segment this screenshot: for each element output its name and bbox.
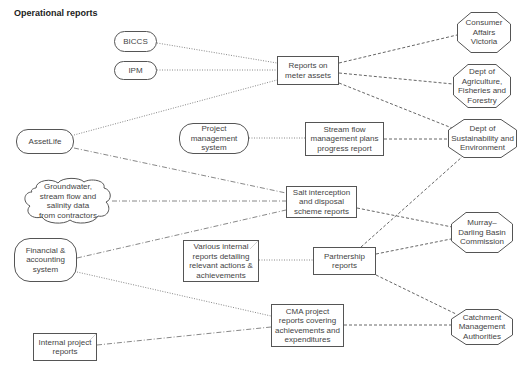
recipient-consumer-affairs-victoria[interactable]: Consumer Affairs Victoria	[457, 12, 511, 53]
source-financial-label: Financial & accounting system	[26, 246, 66, 275]
source-ipm-label: IPM	[128, 66, 142, 76]
source-assetlife[interactable]: AssetLife	[16, 129, 74, 154]
edge-partnership-catchment	[376, 275, 456, 314]
edge-partnership-murray	[376, 239, 451, 254]
report-cma-project-label: CMA project reports covering achievement…	[275, 307, 340, 345]
edge-biccs-meter	[157, 43, 277, 63]
source-groundwater-data[interactable]: Groundwater, stream flow and salinity da…	[22, 176, 114, 226]
recipient-dept-sustainability-environment[interactable]: Dept of Sustainability and Environment	[448, 119, 517, 158]
report-meter-assets-label: Reports on meter assets	[285, 61, 331, 80]
recipient-murray-darling-basin-commission[interactable]: Murray– Darling Basin Commission	[451, 212, 513, 253]
source-biccs-label: BICCS	[123, 37, 147, 47]
edge-internal-cma	[97, 327, 271, 345]
edge-partnership-dse	[361, 157, 462, 247]
edge-salt-murray	[357, 208, 452, 227]
source-ipm[interactable]: IPM	[114, 61, 157, 80]
report-salt-interception-label: Salt interception and disposal scheme re…	[293, 188, 350, 217]
edge-meter-consumer	[339, 35, 457, 63]
recipient-catchment-management-authorities[interactable]: Catchment Management Authorities	[451, 309, 513, 345]
report-cma-project[interactable]: CMA project reports covering achievement…	[271, 304, 344, 347]
source-biccs[interactable]: BICCS	[114, 31, 157, 52]
recipient-catchment-label: Catchment Management Authorities	[459, 313, 506, 342]
report-stream-flow-label: Stream flow management plans progress re…	[310, 125, 378, 154]
report-partnership-label: Partnership reports	[324, 252, 365, 271]
recipient-murray-darling-label: Murray– Darling Basin Commission	[458, 218, 506, 247]
recipient-dept-agriculture-label: Dept of Agriculture, Fisheries and Fores…	[458, 67, 506, 105]
source-project-management-system[interactable]: Project management system	[179, 123, 249, 154]
source-internal-project-reports[interactable]: Internal project reports	[33, 333, 97, 361]
report-salt-interception[interactable]: Salt interception and disposal scheme re…	[286, 186, 357, 218]
report-partnership[interactable]: Partnership reports	[313, 247, 376, 275]
edge-meter-agri	[339, 73, 453, 84]
report-various-internal-label: Various internal reports detailing relev…	[189, 242, 253, 280]
recipient-dse-label: Dept of Sustainability and Environment	[451, 124, 514, 153]
source-assetlife-label: AssetLife	[29, 137, 62, 147]
recipient-dept-agriculture[interactable]: Dept of Agriculture, Fisheries and Fores…	[453, 64, 511, 108]
source-project-management-label: Project management system	[191, 124, 238, 153]
source-internal-project-label: Internal project reports	[39, 338, 92, 357]
source-groundwater-label: Groundwater, stream flow and salinity da…	[39, 182, 97, 220]
report-meter-assets[interactable]: Reports on meter assets	[277, 56, 339, 85]
report-stream-flow[interactable]: Stream flow management plans progress re…	[305, 122, 384, 156]
source-financial-accounting-system[interactable]: Financial & accounting system	[14, 238, 77, 282]
edge-assetlife-meter	[74, 80, 277, 135]
report-various-internal[interactable]: Various internal reports detailing relev…	[183, 240, 259, 282]
recipient-consumer-affairs-label: Consumer Affairs Victoria	[466, 18, 503, 47]
